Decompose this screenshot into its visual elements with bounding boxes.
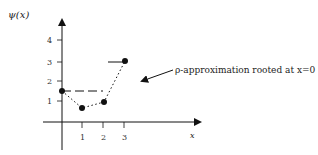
function-diagram: 1 2 3 4 1 2 3 ψ(x) x ρ-approximation roo… [0,0,318,155]
point-x2 [101,99,107,105]
data-points [59,58,128,111]
annotation-text: ρ-approximation rooted at x=0 [175,65,316,75]
y-tick-label-1: 1 [47,97,52,106]
dotted-function-curve [62,61,125,108]
annotation-arrow [142,70,173,81]
x-tick-label-2: 2 [101,133,106,142]
x-axis-label: x [190,131,195,140]
y-tick-label-4: 4 [47,36,52,45]
y-axis-label: ψ(x) [8,9,29,20]
point-x0 [59,88,65,94]
y-tick-label-3: 3 [47,58,52,67]
x-tick-label-3: 3 [122,133,127,142]
y-tick-label-2: 2 [47,77,52,86]
point-x1 [79,105,85,111]
x-tick-label-1: 1 [80,133,85,142]
x-ticks [82,122,124,128]
point-x3 [122,58,128,64]
